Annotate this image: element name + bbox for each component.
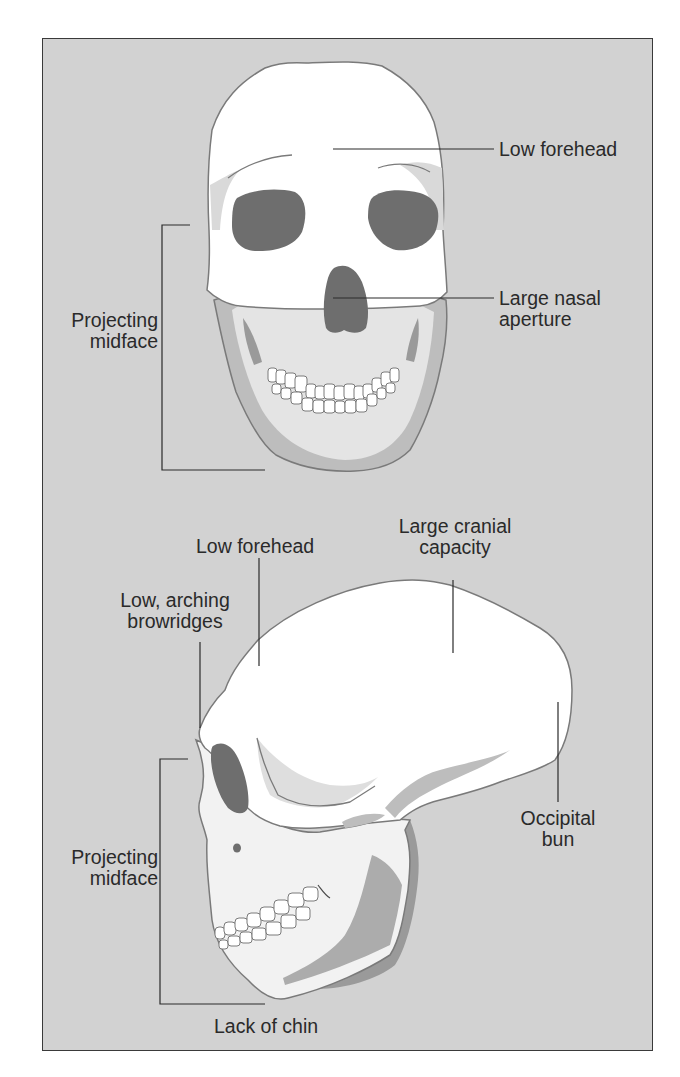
frontal-cranium (207, 62, 447, 309)
lateral-cranium (199, 580, 572, 828)
label-low-forehead-frontal: Low forehead (499, 139, 617, 160)
label-low-arching-browridges: Low, arching browridges (110, 590, 240, 632)
label-projecting-midface-lateral: Projecting midface (54, 847, 158, 889)
label-lack-of-chin: Lack of chin (214, 1016, 318, 1037)
frontal-skull (162, 62, 494, 471)
label-large-cranial-capacity: Large cranial capacity (380, 516, 530, 558)
label-low-forehead-lateral: Low forehead (196, 536, 314, 557)
label-projecting-midface-frontal: Projecting midface (54, 310, 158, 352)
label-occipital-bun: Occipital bun (508, 808, 608, 850)
skull-illustrations (0, 0, 680, 1077)
label-large-nasal-aperture: Large nasal aperture (499, 288, 601, 330)
